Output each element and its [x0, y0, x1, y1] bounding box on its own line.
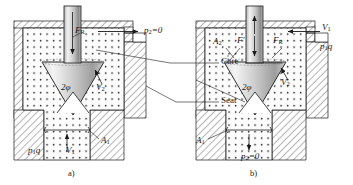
label-b-A1: A1 — [196, 136, 205, 146]
cone-valve-diagram — [0, 0, 353, 185]
label-b-FR: FR — [273, 36, 283, 46]
callout-seat-label: Seat — [221, 96, 237, 105]
label-b-p2: p2=0 — [241, 152, 259, 162]
panel-b — [196, 6, 328, 160]
panel-b-caption: b) — [250, 168, 257, 178]
label-a-FR: FR — [75, 26, 85, 36]
label-b-A2: A2 — [213, 37, 222, 47]
label-a-cone-angle: 2φ — [61, 83, 70, 92]
label-a-V2: V2 — [96, 83, 105, 93]
callout-core-label: Core — [221, 57, 239, 66]
panel-b-stem — [246, 6, 263, 63]
panel-a-caption: a) — [68, 168, 75, 178]
label-b-Fprime: F′ — [237, 36, 244, 45]
label-b-V1: V1 — [322, 23, 331, 33]
label-b-V2: V2 — [281, 78, 290, 88]
label-a-V1: V1 — [66, 146, 75, 156]
label-a-p1q: p1q — [28, 146, 40, 156]
label-b-p1q: p1q — [320, 42, 332, 52]
label-b-cone-angle: 2φ — [242, 83, 251, 92]
label-a-A1: A1 — [101, 136, 110, 146]
label-a-p2: p2=0 — [144, 26, 162, 36]
